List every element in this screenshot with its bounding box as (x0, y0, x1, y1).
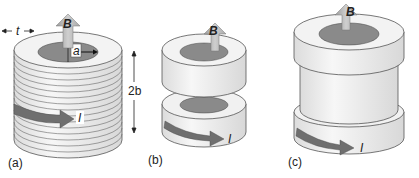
radius-label: a (73, 44, 80, 58)
panel-label: (c) (288, 155, 302, 169)
field-label: B (346, 5, 355, 19)
panel-a: a B t 2b I (a) (2, 14, 142, 170)
figure: a B t 2b I (a) (0, 0, 419, 178)
lower-bore (180, 97, 228, 113)
panel-label: (a) (8, 156, 23, 170)
panel-c: B I (c) (288, 4, 404, 169)
height-label: 2b (128, 84, 142, 98)
field-label: B (209, 24, 218, 38)
panel-b: B I (b) (148, 23, 246, 167)
field-label: B (63, 17, 72, 31)
panel-label: (b) (148, 153, 163, 167)
upper-bore (180, 43, 228, 61)
thickness-label: t (16, 24, 20, 38)
